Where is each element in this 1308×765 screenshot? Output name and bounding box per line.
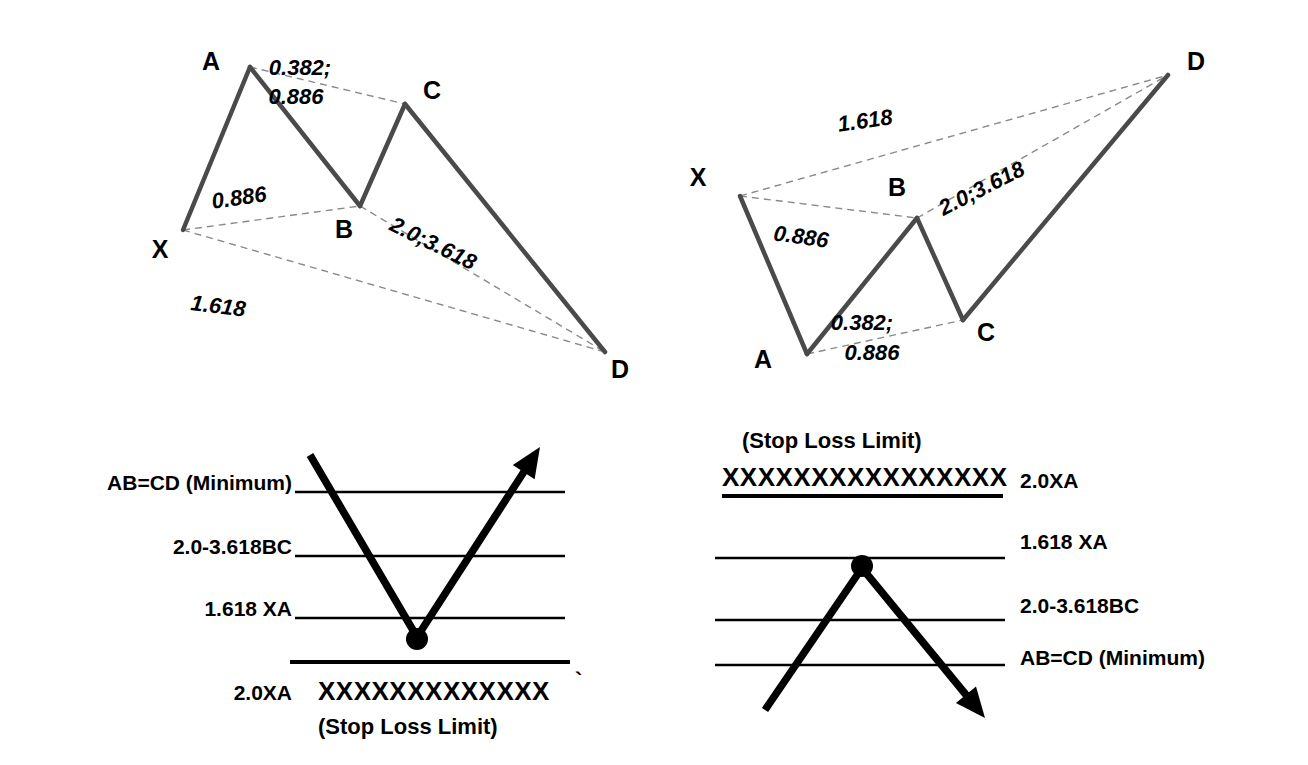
pivot-point-dot <box>851 555 873 577</box>
harmonic-pattern-figure: X A B C D 0.382; 0.886 0.886 2.0;3.618 1… <box>0 0 1308 765</box>
bearish-target-canvas: (Stop Loss Limit) XXXXXXXXXXXXXXXX 2.0XA… <box>0 0 1308 765</box>
level-label-abcd: AB=CD (Minimum) <box>1020 646 1205 669</box>
trend-path <box>765 568 971 710</box>
stop-loss-marker: XXXXXXXXXXXXXXXX <box>722 462 1008 492</box>
bearish-trend-arrow <box>765 555 985 718</box>
level-label-xa-20: 2.0XA <box>1020 469 1078 492</box>
level-label-xa-1618: 1.618 XA <box>1020 530 1108 553</box>
bearish-level-labels: 2.0XA 1.618 XA 2.0-3.618BC AB=CD (Minimu… <box>1020 469 1205 669</box>
stop-loss-caption: (Stop Loss Limit) <box>742 428 922 453</box>
level-label-bc: 2.0-3.618BC <box>1020 594 1139 617</box>
bearish-level-lines <box>715 496 1005 665</box>
